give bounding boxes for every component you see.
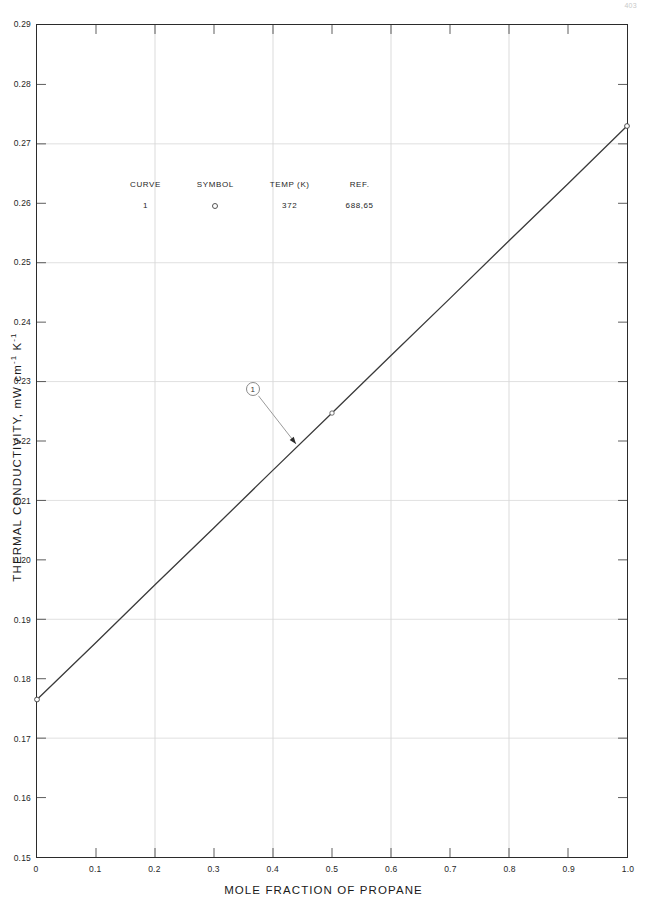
legend-cell-temp: 372 bbox=[252, 201, 328, 210]
y-axis-title-text: THERMAL CONDUCTIVITY, mW cm bbox=[11, 364, 23, 582]
legend-header-temp: TEMP (K) bbox=[252, 180, 328, 201]
y-tick-label: 0.15 bbox=[1, 853, 31, 863]
x-tick-label: 0.1 bbox=[75, 864, 115, 874]
legend-row: 1 372 688,65 bbox=[112, 201, 392, 210]
y-tick-label: 0.27 bbox=[1, 138, 31, 148]
x-tick-label: 0.2 bbox=[134, 864, 174, 874]
y-tick-label: 0.17 bbox=[1, 734, 31, 744]
x-tick-label: 1.0 bbox=[608, 864, 647, 874]
legend-header-row: CURVE SYMBOL TEMP (K) REF. bbox=[112, 180, 392, 201]
data-curve-1 bbox=[35, 124, 630, 702]
legend-header-symbol: SYMBOL bbox=[179, 180, 252, 201]
y-tick-label: 0.29 bbox=[1, 19, 31, 29]
figure-thermal-conductivity-chart: 403 0.150.160.170.180.190.200.210.220.23… bbox=[0, 0, 647, 913]
x-tick-label: 0.8 bbox=[490, 864, 530, 874]
legend-table: CURVE SYMBOL TEMP (K) REF. 1 372 688,65 bbox=[112, 180, 392, 210]
callout-leader-line bbox=[258, 396, 296, 444]
y-axis-title-exp2: -1 bbox=[9, 332, 18, 341]
x-tick-label: 0.7 bbox=[430, 864, 470, 874]
page-number: 403 bbox=[624, 2, 637, 9]
y-axis-title: THERMAL CONDUCTIVITY, mW cm-1 K-1 bbox=[9, 197, 23, 717]
curve-callout-1: 1 bbox=[246, 382, 260, 396]
open-circle-icon bbox=[212, 203, 218, 209]
plot-canvas bbox=[37, 25, 627, 857]
gridlines bbox=[37, 25, 627, 857]
y-axis-title-exp1: -1 bbox=[9, 354, 18, 363]
x-tick-label: 0.5 bbox=[312, 864, 352, 874]
legend-grid: CURVE SYMBOL TEMP (K) REF. 1 372 688,65 bbox=[112, 180, 392, 210]
x-tick-label: 0.6 bbox=[371, 864, 411, 874]
x-tick-label: 0.3 bbox=[194, 864, 234, 874]
x-tick-label: 0 bbox=[16, 864, 56, 874]
y-axis-title-mid: K bbox=[11, 341, 23, 354]
legend-cell-ref: 688,65 bbox=[328, 201, 392, 210]
legend-cell-symbol bbox=[179, 201, 252, 210]
x-tick-label: 0.9 bbox=[549, 864, 589, 874]
axis-ticks bbox=[37, 25, 627, 857]
y-tick-label: 0.28 bbox=[1, 79, 31, 89]
y-tick-label: 0.16 bbox=[1, 793, 31, 803]
legend-cell-curve: 1 bbox=[112, 201, 179, 210]
x-tick-label: 0.4 bbox=[253, 864, 293, 874]
plot-area bbox=[36, 24, 628, 858]
legend-header-ref: REF. bbox=[328, 180, 392, 201]
legend-header-curve: CURVE bbox=[112, 180, 179, 201]
x-axis-title: MOLE FRACTION OF PROPANE bbox=[0, 884, 647, 896]
